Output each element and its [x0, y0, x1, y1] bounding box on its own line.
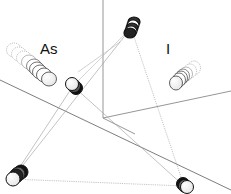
- top-atom: [124, 17, 140, 38]
- label-as: As: [40, 40, 58, 57]
- middle-atom: [66, 78, 83, 95]
- i-ghost-stack: [170, 61, 201, 90]
- bond-middle-bottomright: [73, 86, 184, 186]
- bottom-left-atom: [6, 165, 28, 186]
- bond-bottomleft-bottomright: [12, 179, 184, 186]
- bond-top-bottomleft: [12, 28, 131, 179]
- diagonal-axis: [0, 80, 231, 190]
- bottom-right-atom: [177, 178, 194, 194]
- bonds: [12, 28, 184, 186]
- axes: [0, 0, 231, 190]
- diagram-canvas: [0, 0, 231, 194]
- label-i: I: [166, 40, 170, 57]
- upper-diagonal: [78, 42, 120, 72]
- x-axis: [103, 91, 231, 118]
- bond-top-middle: [73, 28, 131, 86]
